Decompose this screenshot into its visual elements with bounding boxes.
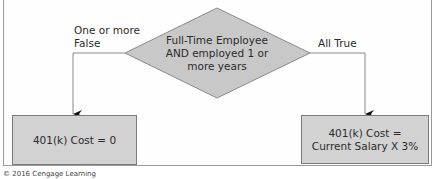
false-branch-label: One or more False: [74, 24, 140, 50]
false-branch-label-line-1: One or more: [74, 24, 140, 37]
decision-text-line-1: Full-Time Employee: [150, 34, 284, 47]
copyright-caption: © 2016 Cengage Learning: [3, 170, 96, 179]
false-branch-connector: [73, 53, 125, 114]
true-result-text-line-2: Current Salary X 3%: [312, 140, 418, 153]
decision-text-line-2: AND employed 1 or: [150, 47, 284, 60]
decision-text-line-3: more years: [150, 60, 284, 73]
true-branch-connector: [310, 53, 365, 114]
false-result-text: 401(k) Cost = 0: [33, 134, 116, 147]
false-branch-label-line-2: False: [74, 37, 140, 50]
true-branch-label-line-1: All True: [318, 37, 357, 49]
decision-text: Full-Time Employee AND employed 1 or mor…: [150, 34, 284, 73]
false-result-box: 401(k) Cost = 0: [12, 115, 137, 165]
true-result-box: 401(k) Cost = Current Salary X 3%: [301, 115, 429, 164]
true-result-text-line-1: 401(k) Cost =: [328, 127, 401, 140]
true-branch-label: All True: [318, 37, 357, 50]
